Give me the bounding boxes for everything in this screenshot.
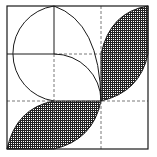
right-outer-arc (54, 6, 101, 101)
inner-arc (54, 54, 101, 101)
shaded-region-top-right (101, 6, 148, 101)
diagram-canvas (0, 0, 157, 157)
solid-segments (7, 6, 54, 54)
geometry-figure (0, 0, 157, 157)
